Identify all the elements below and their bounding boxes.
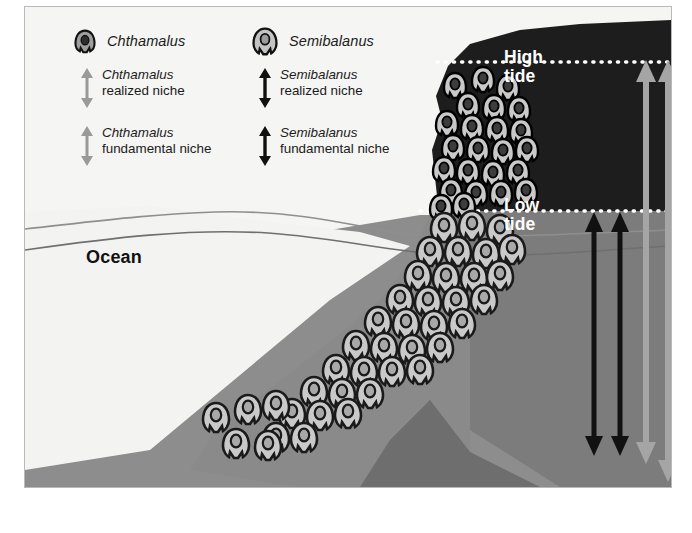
legend-text-chthamalus-realized: Chthamalus realized niche [102,66,185,98]
legend-entry-chthamalus-fundamental: Chthamalus fundamental niche [72,124,250,168]
legend-species-name-semibalanus: Semibalanus [289,33,374,49]
legend: Chthamalus Semibalanus [72,26,432,168]
legend-species-name-chthamalus: Chthamalus [107,33,185,49]
legend-text-semibalanus-realized: Semibalanus realized niche [280,66,363,98]
low-tide-label: Low tide [504,196,539,234]
arrow-double-black-icon [257,124,273,168]
barnacle-light-icon [250,26,280,56]
legend-text-chthamalus-fundamental: Chthamalus fundamental niche [102,124,211,156]
legend-species-semibalanus: Semibalanus [250,26,428,56]
arrow-double-gray-icon [79,124,95,168]
arrow-double-gray-icon [79,66,95,110]
legend-entry-semibalanus-fundamental: Semibalanus fundamental niche [250,124,428,168]
barnacle-dark-icon [72,28,98,54]
high-tide-label: High tide [504,48,543,86]
legend-species-headers: Chthamalus Semibalanus [72,26,432,56]
legend-species-chthamalus: Chthamalus [72,26,250,56]
legend-row-realized: Chthamalus realized niche Semibalanus re… [72,66,432,110]
legend-entry-chthamalus-realized: Chthamalus realized niche [72,66,250,110]
ocean-label: Ocean [86,247,142,268]
legend-row-fundamental: Chthamalus fundamental niche Semibalanus… [72,124,432,168]
diagram-stage: Chthamalus Semibalanus [0,0,692,533]
arrow-double-black-icon [257,66,273,110]
legend-text-semibalanus-fundamental: Semibalanus fundamental niche [280,124,389,156]
legend-entry-semibalanus-realized: Semibalanus realized niche [250,66,428,110]
